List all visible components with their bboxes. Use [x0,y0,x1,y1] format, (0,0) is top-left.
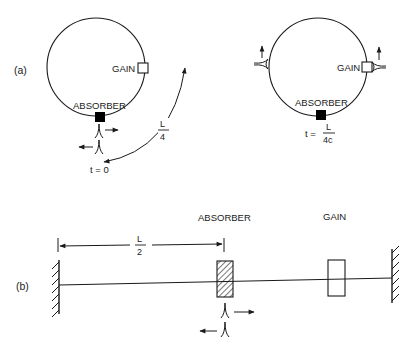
pulse-icon [221,303,229,318]
pulse-icon [221,322,229,337]
absorber-element [95,112,105,122]
linear-cavity: ABSORBER GAIN L 2 [52,211,399,337]
absorber-label: ABSORBER [198,212,251,223]
time-label-prefix: t = [305,128,316,139]
pulse-icon [95,140,103,154]
pulse-icon [372,62,386,72]
saturable-absorber [217,261,233,297]
quarter-length-arc-arrow [104,68,185,162]
mode-locking-diagram: (a) GAIN ABSORBER t = 0 L 4 GAIN ABSORBE… [0,0,417,348]
gain-label: GAIN [323,211,346,222]
gain-medium [328,260,345,296]
dimension-arrow-right [152,244,222,245]
time-label: t = 0 [90,164,109,175]
gain-element [362,62,372,72]
time-label-numerator: L [326,122,331,132]
absorber-element [316,110,326,120]
panel-a-label: (a) [14,64,27,76]
arc-label-denominator: 4 [160,132,165,142]
pulse-icon [254,59,268,69]
dimension-arrow-left [60,245,130,246]
gain-element [138,63,148,73]
ring-cavity-quarter-period: GAIN ABSORBER t = L 4c [254,18,386,145]
panel-b-label: (b) [16,280,29,292]
arc-label-numerator: L [160,119,165,129]
gain-label: GAIN [337,62,360,73]
left-mirror-hatching [52,262,59,317]
time-label-denominator: 4c [323,135,333,145]
pulse-icon [95,124,103,138]
absorber-label: ABSORBER [73,100,126,111]
diagram-stage: (a) GAIN ABSORBER t = 0 L 4 GAIN ABSORBE… [0,0,417,348]
gain-label: GAIN [112,63,135,74]
ring-cavity-t0: GAIN ABSORBER t = 0 L 4 [47,18,185,175]
dimension-numerator: L [137,234,142,244]
absorber-label: ABSORBER [295,97,348,108]
dimension-denominator: 2 [137,247,142,257]
right-mirror-hatching [392,246,399,301]
